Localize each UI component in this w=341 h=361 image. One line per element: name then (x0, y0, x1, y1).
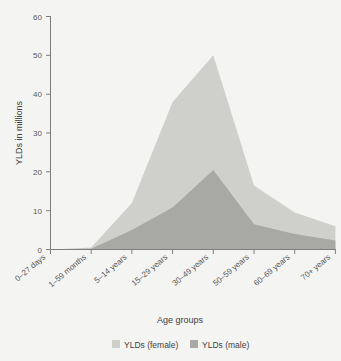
y-tick-label-30: 30 (33, 129, 42, 138)
y-tick-label-60: 60 (33, 13, 42, 22)
y-axis-title: YLDs in millions (14, 100, 24, 165)
legend-swatch-ylds-male (190, 340, 198, 348)
legend-swatch-ylds-female (112, 340, 120, 348)
x-axis-title: Age groups (157, 315, 204, 325)
y-tick-label-40: 40 (33, 90, 42, 99)
legend-label-ylds-male: YLDs (male) (202, 340, 249, 350)
legend-label-ylds-female: YLDs (female) (124, 340, 178, 350)
y-tick-label-50: 50 (33, 51, 42, 60)
y-tick-label-20: 20 (33, 168, 42, 177)
y-tick-label-10: 10 (33, 207, 42, 216)
chart-container: 0 10 20 30 40 50 60 YLDs in millions 0–2… (0, 0, 341, 361)
area-chart: 0 10 20 30 40 50 60 YLDs in millions 0–2… (0, 0, 341, 361)
